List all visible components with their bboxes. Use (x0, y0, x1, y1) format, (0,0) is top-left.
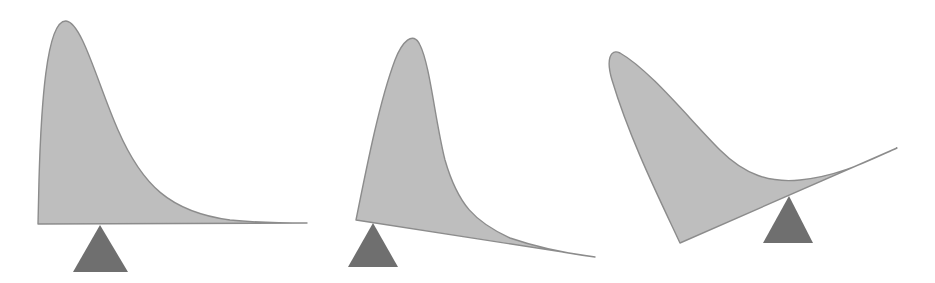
diagram-stage (0, 0, 935, 283)
panel-tilted-up (609, 52, 897, 243)
fulcrum-triangle-icon (73, 225, 128, 272)
panel-balanced (38, 21, 307, 272)
panel-tilted-down (348, 38, 595, 267)
balance-diagram (0, 0, 935, 283)
distribution-curve (38, 21, 307, 224)
fulcrum-triangle-icon (348, 223, 398, 267)
distribution-curve (356, 38, 595, 257)
distribution-curve (609, 52, 897, 243)
